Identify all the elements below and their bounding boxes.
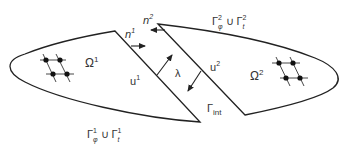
- omega-1-label: Ω1: [85, 55, 99, 70]
- u1-label: u1: [130, 74, 140, 87]
- n2-label: n2: [143, 13, 153, 26]
- boundary-1-label: Γ1φ∪Γ1t: [87, 127, 122, 144]
- lambda-arrow-1: [157, 55, 172, 75]
- domain-1-boundary: [10, 31, 200, 122]
- lambda-arrow-2: [188, 71, 201, 91]
- boundary-2-label: Γ2φ∪Γ2t: [212, 14, 247, 31]
- u2-label: u2: [210, 60, 220, 73]
- interface-label: Γint: [207, 102, 222, 117]
- domain-2-boundary: [158, 24, 338, 115]
- domain-decomposition-diagram: Ω1 Ω2 n1 n2 u1 u2 λ Γint Γ2φ∪Γ2t Γ1φ∪Γ1t: [0, 0, 348, 151]
- lambda-label: λ: [175, 67, 181, 79]
- omega-2-label: Ω2: [250, 68, 264, 83]
- n1-label: n1: [125, 27, 135, 40]
